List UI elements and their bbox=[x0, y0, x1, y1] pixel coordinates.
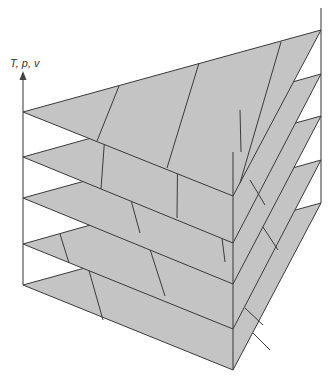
axis-arrow-icon bbox=[20, 71, 27, 80]
vertical-axis bbox=[20, 71, 27, 285]
stacked-layers-diagram bbox=[0, 0, 334, 383]
